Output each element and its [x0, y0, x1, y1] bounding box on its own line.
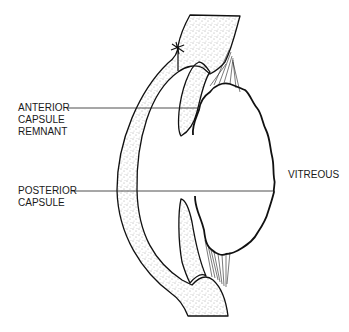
label-line: REMNANT [18, 126, 70, 138]
label-text: VITREOUS [288, 169, 339, 181]
label-line: ANTERIOR [18, 102, 70, 114]
label-line: CAPSULE [18, 114, 70, 126]
vitreous-outline [193, 83, 275, 254]
lower-iris [179, 199, 206, 283]
label-line: POSTERIOR [18, 185, 77, 197]
eye-cross-section-diagram [0, 0, 349, 332]
posterior-capsule-label: POSTERIOR CAPSULE [18, 185, 77, 209]
cornea-sclera-band [117, 15, 240, 316]
vitreous-label: VITREOUS [288, 169, 339, 181]
anterior-capsule-remnant-label: ANTERIOR CAPSULE REMNANT [18, 102, 70, 138]
label-line: CAPSULE [18, 197, 77, 209]
